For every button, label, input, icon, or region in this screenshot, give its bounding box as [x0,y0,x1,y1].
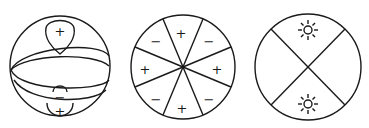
octant-sign-top-right: − [204,34,215,49]
band-mid-edge [11,57,109,70]
octant-sign-bottom-left: − [151,92,162,107]
octant-sign-left: + [140,62,151,77]
sun-icon [298,94,318,114]
bottom-outer-lobe-sign: + [55,104,66,119]
octant-sign-bottom: + [177,101,188,116]
bottom-inner-lobe-sign: − [55,90,66,105]
sun-icon [298,20,318,40]
panel-quadrants [255,14,361,120]
top-lobe-sign: + [55,24,66,39]
octant-sign-bottom-right: − [204,92,215,107]
panel-sphere: + − + [10,16,110,119]
octant-sign-top: + [176,26,187,41]
panel-octants: + − + − + − + − [131,15,235,119]
figure: + − + + − + − + − + − [0,0,369,128]
octant-sign-top-left: − [151,34,162,49]
octant-sign-right: + [212,62,223,77]
figure-canvas: + − + + − + − + − + − [0,0,369,128]
